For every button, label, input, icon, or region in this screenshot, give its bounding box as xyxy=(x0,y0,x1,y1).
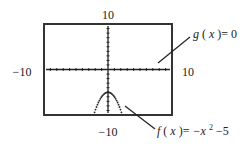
f-var: x xyxy=(169,124,176,138)
g-open-paren: ( xyxy=(202,27,206,41)
f-curve-point xyxy=(116,100,118,102)
f-open-paren: ( xyxy=(163,124,167,138)
f-curve-point xyxy=(120,109,122,111)
f-curve-point xyxy=(94,111,96,113)
axes xyxy=(46,26,170,113)
f-curve-point xyxy=(115,98,117,100)
f-curve-point xyxy=(119,106,121,108)
x-max-label: 10 xyxy=(182,65,194,79)
f-rhs-prefix: −x xyxy=(192,124,206,138)
f-curve-point xyxy=(117,102,119,104)
f-rhs-suffix: −5 xyxy=(216,124,229,138)
f-exponent: 2 xyxy=(209,123,213,132)
x-min-label: −10 xyxy=(13,65,32,79)
g-func-name: g xyxy=(193,27,199,41)
f-curve-point xyxy=(114,96,116,98)
g-annotation-leader-line xyxy=(158,37,190,63)
f-func-name: f xyxy=(157,124,162,138)
f-annotation-leader-line xyxy=(125,106,155,129)
f-curve-point xyxy=(98,100,100,102)
g-var: x xyxy=(208,27,215,41)
y-max-label: 10 xyxy=(102,8,114,22)
f-curve-point xyxy=(98,102,100,104)
y-min-label: −10 xyxy=(99,125,118,139)
f-curve-point xyxy=(118,104,120,106)
g-annotation: g ( x )= 0 xyxy=(193,27,237,41)
f-curve-point xyxy=(121,111,123,113)
graph-figure: 10 −10 −10 10 g ( x )= 0 f ( x )= −x 2 −… xyxy=(0,0,251,147)
f-curve-point xyxy=(96,106,98,108)
f-curve-point xyxy=(99,98,101,100)
f-curve-point xyxy=(97,104,99,106)
g-rhs: 0 xyxy=(231,27,237,41)
f-annotation: f ( x )= −x 2 −5 xyxy=(157,119,229,138)
g-close-paren-eq: )= xyxy=(217,27,228,41)
f-close-paren-eq: )= xyxy=(179,124,190,138)
f-curve-point xyxy=(95,109,97,111)
